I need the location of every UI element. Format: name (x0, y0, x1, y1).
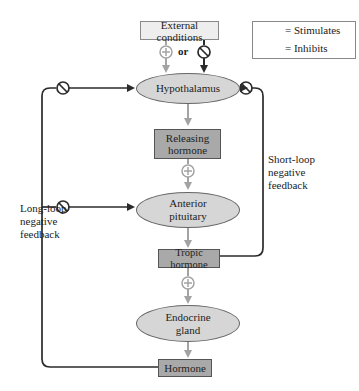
node-external-conditions: External conditions (140, 21, 219, 40)
legend: = Stimulates = Inhibits (252, 21, 356, 59)
node-endocrine-gland: Endocrine gland (136, 305, 240, 342)
node-hypothalamus: Hypothalamus (136, 73, 240, 104)
legend-stimulates-label: = Stimulates (285, 24, 340, 36)
node-hormone: Hormone (158, 359, 212, 377)
stimulate-arrow-tropic (182, 268, 194, 300)
stimulate-arrow-external (160, 40, 172, 69)
short-loop-feedback-path (218, 82, 263, 256)
or-label: or (178, 45, 188, 58)
legend-inhibits-label: = Inhibits (285, 42, 328, 54)
short-loop-label: Short-loop negative feedback (268, 153, 328, 192)
stimulate-arrow-releasing (182, 159, 194, 186)
node-releasing-hormone: Releasing hormone (154, 129, 221, 159)
node-anterior-pituitary: Anterior pituitary (136, 192, 240, 228)
inhibit-arrow-external (198, 40, 210, 69)
node-tropic-hormone: Tropic hormone (158, 249, 220, 268)
long-loop-label: Long-loop negative feedback (20, 202, 80, 241)
